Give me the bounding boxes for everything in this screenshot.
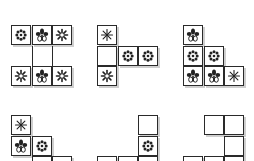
tile-cell	[32, 66, 52, 86]
star-icon	[227, 69, 241, 83]
tulip-icon	[35, 28, 49, 42]
tile-cell	[138, 156, 158, 161]
tile-cell	[138, 115, 158, 135]
tile-cell	[204, 156, 224, 161]
tile-cell	[138, 136, 158, 156]
tile-cell	[204, 115, 224, 135]
dot-flower-icon	[141, 49, 155, 63]
tile-cell	[32, 156, 52, 161]
tile-cell	[204, 66, 224, 86]
star-icon	[14, 118, 28, 132]
tile-cell	[118, 46, 138, 66]
tile-cell	[204, 46, 224, 66]
tile-cell	[224, 115, 244, 135]
tile-cell	[11, 136, 31, 156]
tile-cell	[11, 66, 31, 86]
tulip-icon	[35, 69, 49, 83]
tile-cell	[118, 156, 138, 161]
tile-cell	[97, 66, 117, 86]
tile-cell	[138, 46, 158, 66]
tile-cell	[183, 156, 203, 161]
tile-cell	[11, 25, 31, 45]
connector-line	[32, 46, 33, 67]
tulip-icon	[207, 69, 221, 83]
tile-cell	[224, 156, 244, 161]
star-icon	[100, 28, 114, 42]
dot-flower-icon	[35, 139, 49, 153]
connector-line	[52, 46, 53, 67]
tile-cell	[52, 66, 72, 86]
tile-cell	[97, 156, 117, 161]
snowflake-icon	[55, 28, 69, 42]
snowflake-icon	[100, 69, 114, 83]
tile-cell	[224, 66, 244, 86]
tile-cell	[183, 25, 203, 45]
tile-cell	[52, 25, 72, 45]
snowflake-icon	[55, 69, 69, 83]
dot-flower-icon	[121, 49, 135, 63]
tulip-icon	[186, 28, 200, 42]
tile-cell	[183, 66, 203, 86]
tile-cell	[224, 136, 244, 156]
tulip-icon	[14, 139, 28, 153]
dot-flower-icon	[14, 28, 28, 42]
dot-flower-icon	[141, 139, 155, 153]
snowflake-icon	[14, 69, 28, 83]
tile-cell	[32, 25, 52, 45]
dot-flower-icon	[186, 49, 200, 63]
tile-cell	[32, 136, 52, 156]
tile-cell	[97, 46, 117, 66]
tile-cell	[11, 115, 31, 135]
tulip-icon	[186, 69, 200, 83]
tile-cell	[183, 46, 203, 66]
dot-flower-icon	[207, 49, 221, 63]
tile-cell	[97, 25, 117, 45]
tile-cell	[52, 156, 72, 161]
